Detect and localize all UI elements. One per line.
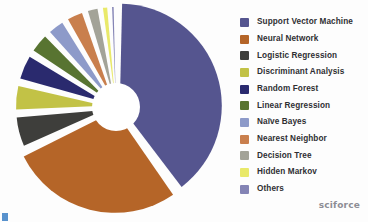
chart-legend: Support Vector MachineNeural NetworkLogi… xyxy=(240,14,368,198)
legend-item-label: Neural Network xyxy=(257,35,318,43)
donut-hole xyxy=(92,83,140,131)
legend-item-label: Decision Tree xyxy=(257,152,312,160)
corner-mark-icon xyxy=(2,213,8,221)
legend-item-label: Discriminant Analysis xyxy=(257,68,344,76)
legend-item[interactable]: Support Vector Machine xyxy=(240,14,368,31)
donut-chart xyxy=(0,0,232,215)
pie-chart-area xyxy=(0,0,232,215)
legend-item[interactable]: Nearest Neighbor xyxy=(240,131,368,148)
legend-item[interactable]: Discriminant Analysis xyxy=(240,64,368,81)
legend-item[interactable]: Decision Tree xyxy=(240,148,368,165)
legend-item[interactable]: Random Forest xyxy=(240,81,368,98)
legend-color-swatch-icon xyxy=(240,135,249,144)
legend-color-swatch-icon xyxy=(240,85,249,94)
legend-item[interactable]: Logistic Regression xyxy=(240,47,368,64)
legend-item[interactable]: Naïve Bayes xyxy=(240,114,368,131)
legend-color-swatch-icon xyxy=(240,101,249,110)
legend-item-label: Nearest Neighbor xyxy=(257,135,327,143)
legend-item-label: Naïve Bayes xyxy=(257,118,306,126)
legend-item-label: Logistic Regression xyxy=(257,52,337,60)
legend-item-label: Others xyxy=(257,185,284,193)
legend-item[interactable]: Linear Regression xyxy=(240,97,368,114)
legend-color-swatch-icon xyxy=(240,118,249,127)
legend-item[interactable]: Others xyxy=(240,181,368,198)
legend-color-swatch-icon xyxy=(240,18,249,27)
legend-item-label: Random Forest xyxy=(257,85,318,93)
chart-page: Support Vector MachineNeural NetworkLogi… xyxy=(0,0,368,222)
legend-color-swatch-icon xyxy=(240,35,249,44)
legend-color-swatch-icon xyxy=(240,168,249,177)
pie-slice[interactable] xyxy=(112,7,116,95)
legend-item[interactable]: Neural Network xyxy=(240,31,368,48)
legend-item-label: Hidden Markov xyxy=(257,168,317,176)
legend-item-label: Support Vector Machine xyxy=(257,18,353,26)
legend-color-swatch-icon xyxy=(240,68,249,77)
legend-item-label: Linear Regression xyxy=(257,102,330,110)
legend-item[interactable]: Hidden Markov xyxy=(240,164,368,181)
legend-color-swatch-icon xyxy=(240,185,249,194)
legend-color-swatch-icon xyxy=(240,151,249,160)
legend-color-swatch-icon xyxy=(240,51,249,60)
sciforce-logo: sciforce xyxy=(319,200,360,210)
